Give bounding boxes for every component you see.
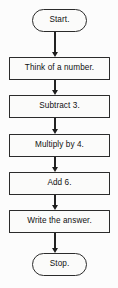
connector-add-to-write (51, 195, 60, 210)
connector-stem (54, 233, 56, 248)
flowchart-node-start: Start. (32, 9, 87, 32)
flowchart-node-think: Think of a number. (9, 57, 110, 80)
connector-think-to-subtract (51, 80, 60, 95)
flowchart-canvas: Start. Think of a number. Subtract 3. Mu… (0, 0, 118, 288)
connector-write-to-stop (51, 233, 60, 253)
node-label-add: Add 6. (47, 179, 71, 187)
connector-stem (54, 118, 56, 129)
connector-multiply-to-add (51, 157, 60, 172)
connector-start-to-think (51, 32, 60, 57)
flowchart-node-stop: Stop. (32, 253, 87, 276)
node-label-think: Think of a number. (25, 64, 94, 72)
node-label-start: Start. (49, 16, 69, 24)
connector-subtract-to-multiply (51, 118, 60, 134)
node-label-stop: Stop. (50, 260, 70, 268)
node-label-write: Write the answer. (27, 217, 92, 225)
node-label-multiply: Multiply by 4. (35, 141, 84, 149)
flowchart-node-subtract: Subtract 3. (9, 95, 110, 118)
connector-stem (54, 32, 56, 52)
flowchart-node-multiply: Multiply by 4. (9, 134, 110, 157)
flowchart-node-write: Write the answer. (9, 210, 110, 233)
connector-stem (54, 80, 56, 90)
flowchart-node-add: Add 6. (9, 172, 110, 195)
connector-stem (54, 195, 56, 205)
connector-stem (54, 157, 56, 167)
node-label-subtract: Subtract 3. (39, 102, 80, 110)
